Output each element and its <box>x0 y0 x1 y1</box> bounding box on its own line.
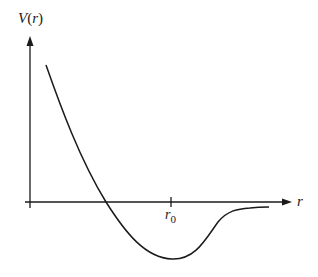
r0-subscript: 0 <box>170 213 176 225</box>
potential-energy-diagram: V(r) r r0 <box>0 0 318 277</box>
y-label-close-paren: ) <box>38 10 43 26</box>
r0-tick-label: r0 <box>165 207 176 223</box>
x-axis-arrow-icon <box>282 199 292 206</box>
potential-curve <box>46 65 269 259</box>
y-axis-arrow-icon <box>27 36 34 46</box>
y-label-name: V <box>18 10 27 26</box>
y-axis-label: V(r) <box>18 10 43 27</box>
x-axis-label: r <box>297 193 303 210</box>
diagram-canvas <box>0 0 318 277</box>
